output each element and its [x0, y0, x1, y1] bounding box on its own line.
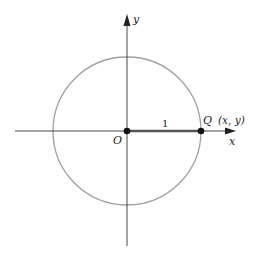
point-q	[198, 128, 205, 135]
x-axis-label: x	[229, 135, 236, 148]
radius-label: 1	[162, 118, 168, 129]
y-axis-arrow-icon	[124, 14, 131, 26]
origin-point	[124, 128, 131, 135]
point-q-coords: (x, y)	[218, 114, 245, 126]
x-axis-arrow-icon	[225, 128, 236, 135]
y-axis-label: y	[132, 13, 140, 26]
point-q-label: Q	[203, 114, 212, 127]
origin-label: O	[113, 134, 122, 147]
unit-circle-diagram: y x O 1 Q (x, y)	[0, 0, 257, 255]
